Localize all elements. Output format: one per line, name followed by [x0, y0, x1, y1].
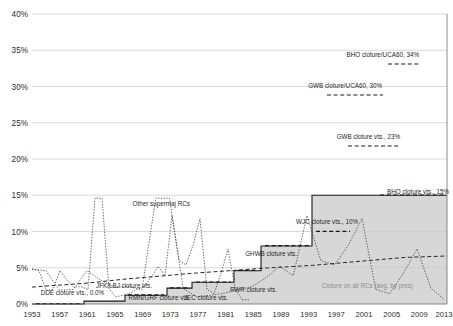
- ytick-label: 40%: [12, 10, 28, 19]
- y-axis: 40% 35% 30% 25% 20% 15% 10% 5% 0%: [12, 10, 28, 309]
- xtick-label: 2001: [356, 310, 373, 319]
- cloture-votes-chart: 40% 35% 30% 25% 20% 15% 10% 5% 0%: [0, 0, 453, 326]
- ytick-label: 15%: [12, 191, 28, 200]
- annotation-label: WJC cloture vts., 10%: [296, 218, 358, 225]
- xtick-label: 1961: [79, 310, 96, 319]
- xtick-label: 2009: [411, 310, 428, 319]
- annotation-gwb-uca60: GWB cloture/UCA60, 30%: [308, 82, 383, 95]
- xtick-label: 1973: [162, 310, 179, 319]
- annotation-label: Cloture on all RCs (avg. by pres): [322, 282, 413, 290]
- chart-container: 40% 35% 30% 25% 20% 15% 10% 5% 0%: [0, 0, 453, 326]
- annotation-label: GWB cloture/UCA60, 30%: [308, 82, 382, 89]
- annotation-label: GWB cloture vts., 23%: [337, 133, 401, 140]
- annotation-label: DDE cloture vts., 0.0%: [41, 289, 105, 296]
- xtick-label: 1985: [245, 310, 262, 319]
- annotation-dde-cloture: DDE cloture vts., 0.0%: [41, 289, 105, 296]
- xtick-label: 1997: [328, 310, 345, 319]
- annotation-gwb-cloture: GWB cloture vts., 23%: [337, 133, 401, 146]
- annotation-label: JFK/LBJ cloture vts.: [96, 282, 152, 289]
- annotation-jec-cloture: JEC cloture vts.: [184, 294, 228, 301]
- annotation-wjc-cloture: WJC cloture vts., 10%: [296, 218, 358, 225]
- xtick-label: 2013: [436, 310, 453, 319]
- annotation-bho-uca60: BHO cloture/UCA60, 34%: [347, 51, 420, 64]
- xtick-label: 1989: [273, 310, 290, 319]
- annotation-label: Other supermaj RCs: [133, 200, 190, 208]
- ytick-label: 20%: [12, 155, 28, 164]
- annotation-bho-cloture: BHO cloture vts., 15%: [387, 188, 449, 195]
- ytick-label: 0%: [16, 300, 28, 309]
- ytick-label: 25%: [12, 119, 28, 128]
- annotation-jfklbj-cloture: JFK/LBJ cloture vts.: [96, 282, 152, 289]
- xtick-label: 1993: [300, 310, 317, 319]
- xtick-label: 1957: [51, 310, 68, 319]
- annotation-rwr-cloture: RWR cloture vts.: [230, 286, 277, 293]
- annotation-label: RMN/GRF cloture vts.: [128, 294, 190, 301]
- annotation-rmngrf-cloture: RMN/GRF cloture vts.: [128, 294, 190, 301]
- xtick-label: 1969: [134, 310, 151, 319]
- annotation-cloture-all-rcs: Cloture on all RCs (avg. by pres): [322, 282, 413, 290]
- ytick-label: 5%: [16, 264, 28, 273]
- annotation-label: GHWB cloture vts.: [245, 250, 297, 257]
- xtick-label: 1977: [190, 310, 207, 319]
- ytick-label: 35%: [12, 46, 28, 55]
- ytick-label: 10%: [12, 228, 28, 237]
- annotation-label: RWR cloture vts.: [230, 286, 277, 293]
- annotation-label: JEC cloture vts.: [184, 294, 228, 301]
- xtick-label: 1965: [107, 310, 124, 319]
- xtick-label: 1981: [217, 310, 234, 319]
- xtick-label: 1953: [24, 310, 41, 319]
- annotation-other-supermaj: Other supermaj RCs: [133, 200, 190, 208]
- x-axis: 1953 1957 1961 1965 1969 1973 1977 1981 …: [24, 310, 453, 319]
- ytick-label: 30%: [12, 83, 28, 92]
- xtick-label: 2005: [383, 310, 400, 319]
- annotation-label: BHO cloture/UCA60, 34%: [347, 51, 420, 58]
- annotation-ghwb-cloture: GHWB cloture vts.: [245, 250, 297, 257]
- annotation-label: BHO cloture vts., 15%: [387, 188, 449, 195]
